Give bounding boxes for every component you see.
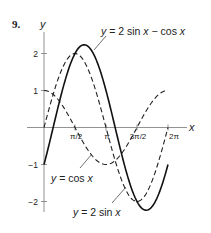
problem-number: 9.: [12, 18, 21, 30]
y-tick-label: 1: [33, 86, 38, 96]
chart-canvas: 9. y x 21−1−2 π/2π3π/22π y = 2 sin x − c…: [0, 0, 211, 233]
leader-line-solid: [94, 36, 106, 50]
label-cos: y = cos x: [50, 172, 93, 184]
label-two-sin: y = 2 sin x: [72, 206, 121, 218]
y-tick-label: −2: [28, 197, 38, 207]
y-tick-label: −1: [28, 160, 38, 170]
label-two-sin-minus-cos: y = 2 sin x − cos x: [100, 25, 186, 37]
y-axis-label: y: [39, 18, 47, 30]
leader-line-sin: [112, 187, 126, 203]
x-tick-label: π/2: [70, 132, 83, 141]
x-axis-label: x: [188, 121, 195, 133]
y-tick-label: 2: [33, 49, 38, 59]
leader-line-cos: [80, 154, 92, 168]
x-tick-label: 2π: [169, 132, 179, 141]
x-ticks: π/2π3π/22π: [70, 125, 180, 141]
